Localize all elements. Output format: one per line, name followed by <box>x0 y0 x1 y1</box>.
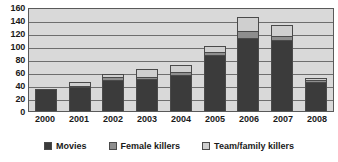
x-axis-tick-label: 2004 <box>170 114 192 125</box>
bar-segment <box>271 40 293 111</box>
y-axis-tick-label: 0 <box>20 108 25 117</box>
bar-segment <box>170 65 192 72</box>
bar-segment <box>136 69 158 76</box>
y-axis-tick-label: 60 <box>15 69 25 78</box>
y-axis-tick-label: 160 <box>11 4 25 13</box>
bar-group <box>204 9 226 111</box>
x-axis-tick-label: 2007 <box>272 114 294 125</box>
legend-label: Female killers <box>121 142 181 151</box>
bar-group <box>35 9 57 111</box>
y-axis-tick-label: 80 <box>15 56 25 65</box>
y-axis-tick-label: 100 <box>11 43 25 52</box>
y-axis-tick-label: 120 <box>11 30 25 39</box>
legend-label: Movies <box>56 142 87 151</box>
bar-segment <box>102 80 124 111</box>
bar-segment <box>305 82 327 111</box>
legend-swatch-icon <box>109 142 117 150</box>
plot-area <box>28 8 334 112</box>
bar-segment <box>237 17 259 31</box>
bar-segment <box>204 55 226 111</box>
legend-item: Movies <box>44 142 87 151</box>
x-axis-tick-label: 2001 <box>68 114 90 125</box>
legend-swatch-icon <box>44 142 52 150</box>
y-axis-tick-label: 40 <box>15 82 25 91</box>
y-axis: 160140120100806040200 <box>0 8 27 112</box>
x-axis-tick-label: 2003 <box>136 114 158 125</box>
legend-item: Female killers <box>109 142 181 151</box>
bar-group <box>271 9 293 111</box>
bars-layer <box>29 9 333 111</box>
bar-group <box>237 9 259 111</box>
bar-segment <box>237 38 259 111</box>
legend-label: Team/family killers <box>214 142 294 151</box>
x-axis-tick-label: 2006 <box>238 114 260 125</box>
bar-segment <box>136 79 158 111</box>
bar-segment <box>69 87 91 111</box>
bar-group <box>136 9 158 111</box>
x-axis-tick-label: 2002 <box>102 114 124 125</box>
stacked-bar-chart: 160140120100806040200 200020012002200320… <box>0 0 338 162</box>
bar-segment <box>271 25 293 37</box>
bar-group <box>305 9 327 111</box>
bar-group <box>69 9 91 111</box>
bar-segment <box>35 89 57 111</box>
legend-swatch-icon <box>202 142 210 150</box>
y-axis-tick-label: 140 <box>11 17 25 26</box>
x-axis-tick-label: 2008 <box>306 114 328 125</box>
x-axis: 200020012002200320042005200620072008 <box>28 114 334 128</box>
bar-group <box>170 9 192 111</box>
legend-item: Team/family killers <box>202 142 294 151</box>
y-axis-tick-label: 20 <box>15 95 25 104</box>
bar-group <box>102 9 124 111</box>
bar-segment <box>170 75 192 111</box>
chart-legend: MoviesFemale killersTeam/family killers <box>0 138 338 154</box>
x-axis-tick-label: 2000 <box>34 114 56 125</box>
x-axis-tick-label: 2005 <box>204 114 226 125</box>
